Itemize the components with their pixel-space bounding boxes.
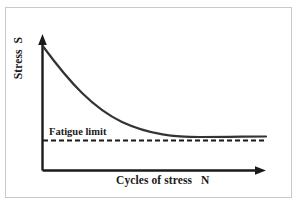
x-axis-label: Cycles of stress N [116, 175, 209, 187]
sn-curve-path [44, 47, 267, 137]
figure-root: Stress S Cycles of stress N Fatigue limi… [0, 0, 301, 208]
y-axis-arrowhead [38, 34, 47, 45]
fatigue-limit-label: Fatigue limit [49, 127, 106, 138]
x-axis-arrowhead [255, 166, 266, 175]
y-axis-label: Stress S [13, 37, 25, 79]
